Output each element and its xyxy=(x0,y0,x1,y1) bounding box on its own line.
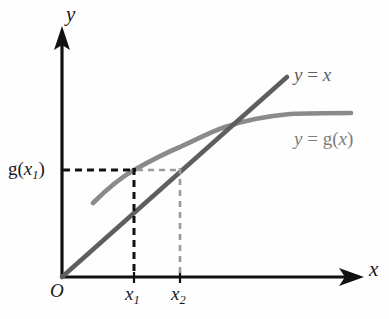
curve-y-equals-g-of-x xyxy=(93,113,351,203)
y-axis-label: y xyxy=(66,4,75,25)
diagram-canvas xyxy=(0,0,389,319)
g-of-x1-variable: x xyxy=(24,158,32,179)
g-of-x1-subscript: 1 xyxy=(32,168,38,182)
x1-tick-label: x1 xyxy=(125,284,140,303)
curve-equation-equals: = xyxy=(302,128,322,149)
line-equation-rhs: x xyxy=(323,64,331,85)
origin-label: O xyxy=(50,281,64,300)
line-equation-label: y = x xyxy=(294,65,331,84)
x1-subscript: 1 xyxy=(133,293,139,307)
g-of-x1-axis-label: g(x1) xyxy=(8,159,45,178)
x2-tick-label: x2 xyxy=(171,284,186,303)
g-of-x1-suffix: ) xyxy=(39,158,45,179)
math-diagram-figure: y x O x1 x2 g(x1) y = x y = g(x) xyxy=(0,0,389,319)
line-equation-equals: = xyxy=(302,64,322,85)
g-of-x1-prefix: g( xyxy=(8,158,24,179)
curve-equation-label: y = g(x) xyxy=(294,129,353,148)
curve-equation-function: g( xyxy=(323,128,339,149)
x-axis-label: x xyxy=(369,259,378,280)
curve-equation-close-paren: ) xyxy=(347,128,353,149)
curve-equation-variable: x xyxy=(338,128,346,149)
line-y-equals-x xyxy=(62,77,287,277)
x2-subscript: 2 xyxy=(179,293,185,307)
